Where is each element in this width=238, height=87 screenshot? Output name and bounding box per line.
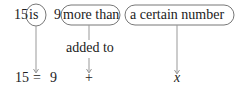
number-9-bottom: 9 — [50, 70, 57, 86]
number-15-bottom: 15 — [15, 70, 29, 86]
number-9-top: 9 — [54, 7, 61, 23]
phrase-a-certain-number: a certain number — [130, 7, 224, 23]
word-is: is — [29, 7, 38, 23]
number-15-top: 15 — [14, 7, 28, 23]
variable-x: x — [174, 70, 180, 86]
plus-sign: + — [85, 70, 93, 86]
phrase-more-than: more than — [63, 7, 119, 23]
phrase-added-to: added to — [66, 40, 114, 56]
equals-sign: = — [33, 70, 41, 86]
